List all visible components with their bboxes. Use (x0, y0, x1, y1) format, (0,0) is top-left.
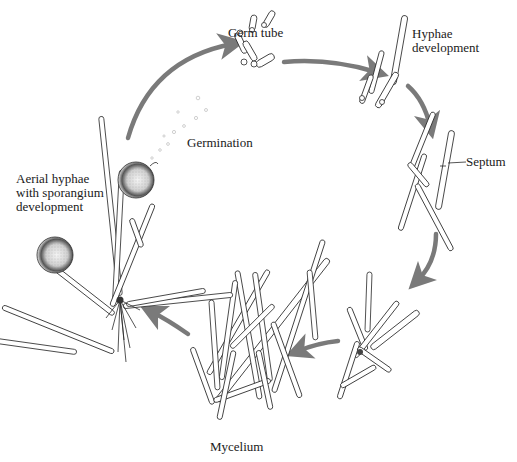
hyphae-development-drawing (359, 15, 408, 109)
sporangium-upper (118, 162, 158, 198)
mycelium-drawing (190, 239, 331, 420)
arrow-sporangium-to-germtube (128, 44, 232, 138)
label-septum: Septum (466, 155, 506, 169)
label-germination: Germination (187, 136, 253, 150)
sporangium-lower (37, 237, 73, 273)
branching-hyphae-drawing (337, 272, 421, 400)
label-aerial-hyphae: Aerial hyphae with sporangium developmen… (16, 172, 104, 214)
label-germ-tube: Germ tube (228, 26, 283, 40)
arrow-germtube-to-hyphae (284, 61, 376, 72)
fungal-life-cycle-diagram: Germ tube Germination Hyphae development… (0, 0, 517, 462)
arrow-hyphae-to-septum (408, 86, 430, 126)
aerial-hyphae-drawing (0, 116, 233, 362)
diagram-canvas (0, 0, 517, 462)
label-mycelium: Mycelium (210, 440, 263, 454)
arrow-branching-to-mycelium (298, 341, 338, 351)
arrow-mycelium-to-aerial (152, 312, 188, 334)
septum-drawing (398, 111, 466, 251)
septum-leader-line (448, 162, 466, 163)
arrow-septum-to-branching (418, 234, 436, 280)
label-hyphae-development: Hyphae development (412, 27, 479, 55)
